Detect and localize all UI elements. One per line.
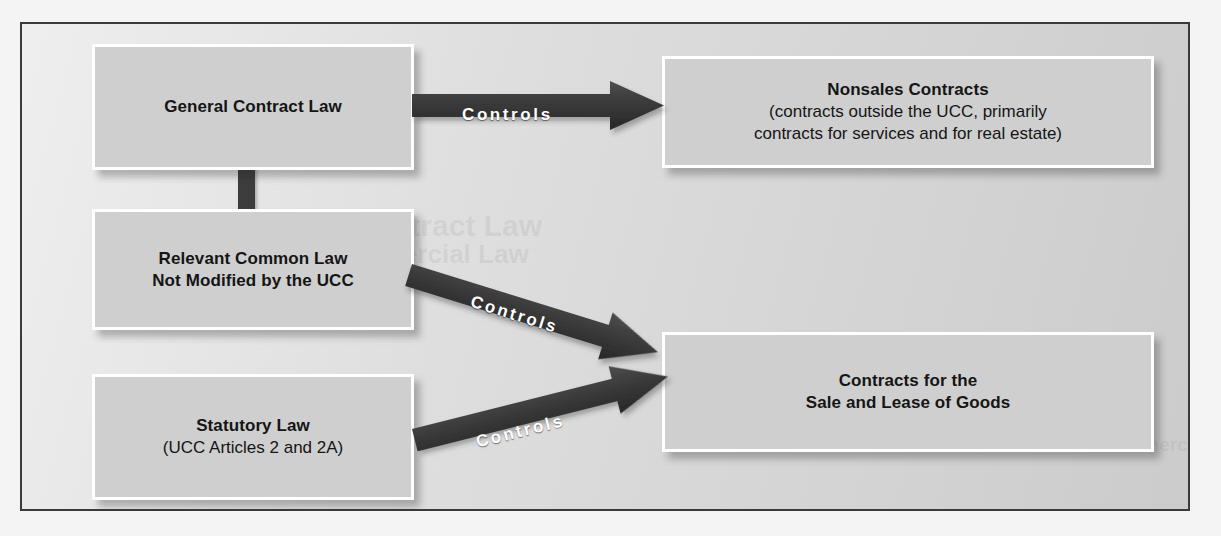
box-statutory-law-line2: (UCC Articles 2 and 2A) bbox=[163, 437, 343, 459]
box-relevant-common-law-content: Relevant Common Law Not Modified by the … bbox=[142, 248, 364, 292]
box-contracts-sale-lease-goods-content: Contracts for the Sale and Lease of Good… bbox=[796, 370, 1020, 414]
box-nonsales-contracts-content: Nonsales Contracts (contracts outside th… bbox=[744, 79, 1072, 144]
arrow-general-to-nonsales bbox=[412, 81, 664, 130]
arrow-label-common-to-goods: Controls bbox=[468, 292, 561, 338]
box-statutory-law[interactable]: Statutory Law (UCC Articles 2 and 2A) bbox=[92, 374, 414, 500]
box-relevant-common-law-line1: Relevant Common Law bbox=[152, 248, 354, 270]
box-general-contract-law-content: General Contract Law bbox=[154, 96, 352, 118]
diagram-frame: Contract Law Commercial Law Uniform Comm… bbox=[20, 22, 1190, 511]
connector-general-to-common bbox=[238, 167, 255, 212]
arrow-statutory-to-goods bbox=[409, 353, 674, 464]
scanned-page: Contract Law Commercial Law Uniform Comm… bbox=[0, 0, 1221, 536]
box-general-contract-law-line1: General Contract Law bbox=[164, 96, 342, 118]
box-general-contract-law[interactable]: General Contract Law bbox=[92, 44, 414, 170]
box-nonsales-contracts-line3: contracts for services and for real esta… bbox=[754, 123, 1062, 145]
box-contracts-sale-lease-goods-line2: Sale and Lease of Goods bbox=[806, 392, 1010, 414]
box-nonsales-contracts-line1: Nonsales Contracts bbox=[754, 79, 1062, 101]
box-relevant-common-law[interactable]: Relevant Common Law Not Modified by the … bbox=[92, 209, 414, 330]
arrow-label-general-to-nonsales: Controls bbox=[462, 105, 553, 125]
box-contracts-sale-lease-goods[interactable]: Contracts for the Sale and Lease of Good… bbox=[662, 332, 1154, 452]
box-contracts-sale-lease-goods-line1: Contracts for the bbox=[806, 370, 1010, 392]
box-statutory-law-line1: Statutory Law bbox=[163, 415, 343, 437]
box-nonsales-contracts[interactable]: Nonsales Contracts (contracts outside th… bbox=[662, 56, 1154, 168]
arrow-label-statutory-to-goods: Controls bbox=[474, 411, 567, 452]
box-nonsales-contracts-line2: (contracts outside the UCC, primarily bbox=[754, 101, 1062, 123]
box-statutory-law-content: Statutory Law (UCC Articles 2 and 2A) bbox=[153, 415, 353, 459]
box-relevant-common-law-line2: Not Modified by the UCC bbox=[152, 270, 354, 292]
arrow-common-to-goods bbox=[401, 252, 665, 376]
